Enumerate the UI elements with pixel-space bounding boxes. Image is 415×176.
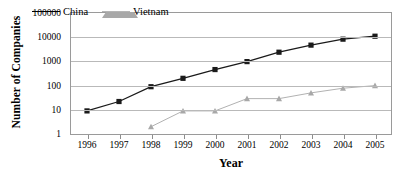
x-tick-label: 1998 [142, 140, 161, 150]
y-tick-label: 10000 [37, 32, 61, 42]
triangle-marker-icon [102, 11, 138, 18]
gridline [71, 37, 391, 38]
x-tick-label: 2002 [270, 140, 289, 150]
chart-legend: China Vietnam [32, 6, 169, 17]
series-layer [71, 13, 391, 134]
gridline [71, 86, 391, 87]
gridline [71, 110, 391, 111]
x-tick-label: 1999 [174, 140, 193, 150]
x-tick-label: 2000 [206, 140, 225, 150]
plot-area [70, 12, 392, 135]
data-point-marker-triangle [148, 124, 154, 130]
data-point-marker-square [276, 50, 281, 55]
x-tick-label: 2003 [302, 140, 321, 150]
legend-label-vietnam: Vietnam [133, 6, 169, 17]
x-tick-label: 1997 [110, 140, 129, 150]
x-axis-tick-labels: 1996199719981999200020012002200320042005 [70, 137, 392, 153]
y-tick-label: 1000 [42, 56, 61, 66]
y-tick-label: 1 [56, 129, 61, 139]
legend-item-vietnam: Vietnam [102, 6, 169, 17]
series-line-vietnam [151, 86, 375, 127]
y-tick-label: 10 [52, 105, 62, 115]
legend-swatch-vietnam [102, 6, 130, 17]
x-tick-label: 2005 [366, 140, 385, 150]
legend-label-china: China [63, 6, 88, 17]
data-point-marker-square [212, 67, 217, 72]
square-marker-icon [32, 11, 60, 12]
gridline [71, 61, 391, 62]
chart-figure: Number of Companies 11010010001000010000… [0, 0, 415, 176]
x-axis-title: Year [70, 156, 392, 171]
y-axis-tick-labels: 110100100010000100000 [0, 12, 66, 135]
x-tick-label: 2004 [334, 140, 353, 150]
x-tick-label: 1996 [78, 140, 97, 150]
x-tick-label: 2001 [238, 140, 257, 150]
legend-item-china: China [32, 6, 88, 17]
data-point-marker-square [116, 99, 121, 104]
data-point-marker-square [308, 43, 313, 48]
data-point-marker-square [180, 76, 185, 81]
y-tick-label: 100 [47, 81, 61, 91]
series-line-china [87, 36, 375, 111]
legend-swatch-china [32, 6, 60, 17]
